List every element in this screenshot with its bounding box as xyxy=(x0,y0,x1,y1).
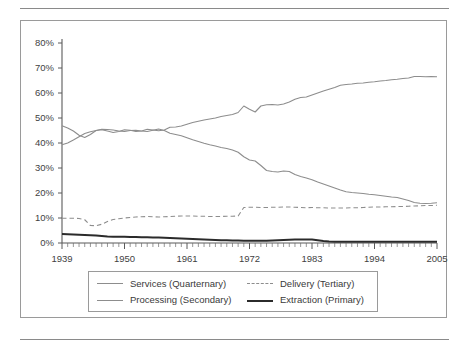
legend-swatch-line-icon xyxy=(97,279,123,287)
legend-label-extraction: Extraction (Primary) xyxy=(280,295,364,305)
y-axis-tick-label: 80% xyxy=(35,37,55,48)
x-axis-tick-label: 1994 xyxy=(364,253,385,264)
y-axis-tick-label: 30% xyxy=(35,162,55,173)
legend-swatch-dashed-line-icon xyxy=(247,279,273,287)
x-axis-tick-label: 1950 xyxy=(114,253,135,264)
legend-item-processing: Processing (Secondary) xyxy=(97,295,247,305)
x-axis-tick-label: 1961 xyxy=(176,253,197,264)
y-axis-tick-label: 60% xyxy=(35,87,55,98)
x-axis-tick-label: 1939 xyxy=(51,253,72,264)
legend-item-delivery: Delivery (Tertiary) xyxy=(247,279,387,289)
series-line-services xyxy=(62,77,437,145)
x-axis-tick-label: 1983 xyxy=(301,253,322,264)
x-axis-tick-label: 1972 xyxy=(239,253,260,264)
chart-legend: Services (Quarternary) Delivery (Tertiar… xyxy=(88,271,378,312)
series-line-delivery xyxy=(62,205,437,226)
y-axis-tick-label: 20% xyxy=(35,187,55,198)
legend-item-extraction: Extraction (Primary) xyxy=(247,295,387,305)
y-axis-tick-label: 50% xyxy=(35,112,55,123)
y-axis-tick-label: 40% xyxy=(35,137,55,148)
legend-swatch-thick-line-icon xyxy=(247,296,273,304)
legend-swatch-line-icon xyxy=(97,296,123,304)
figure-page: 0%10%20%30%40%50%60%70%80%19391950196119… xyxy=(0,0,469,348)
legend-item-services: Services (Quarternary) xyxy=(97,279,247,289)
x-axis-tick-label: 2005 xyxy=(426,253,447,264)
series-line-processing xyxy=(62,126,437,204)
y-axis-tick-label: 70% xyxy=(35,62,55,73)
y-axis-tick-label: 0% xyxy=(40,237,54,248)
legend-label-processing: Processing (Secondary) xyxy=(130,295,231,305)
y-axis-tick-label: 10% xyxy=(35,212,55,223)
legend-label-services: Services (Quarternary) xyxy=(130,279,226,289)
legend-label-delivery: Delivery (Tertiary) xyxy=(280,279,354,289)
series-line-extraction xyxy=(62,234,437,242)
